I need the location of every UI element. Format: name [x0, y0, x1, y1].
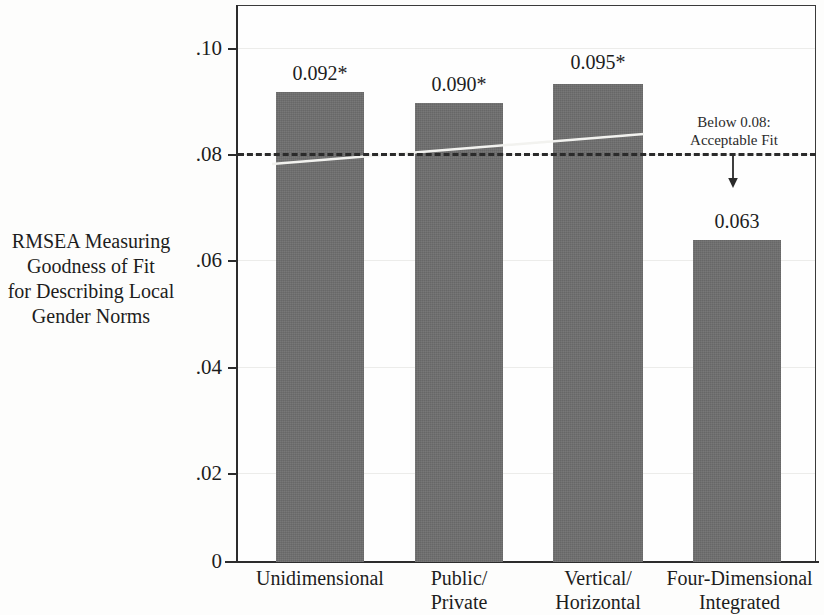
y-tick-mark [228, 473, 238, 475]
bar-value-label: 0.090* [409, 74, 509, 94]
y-tick-mark [228, 561, 238, 563]
threshold-annotation-line: Acceptable Fit [663, 131, 805, 149]
x-category-label-line: Integrated [655, 590, 824, 614]
y-tick-label: 0 [170, 551, 222, 572]
gridline [238, 48, 815, 49]
x-category-label-line: Four-Dimensional [655, 566, 824, 590]
threshold-annotation: Below 0.08: Acceptable Fit [663, 113, 805, 149]
y-tick-label: .10 [170, 38, 222, 59]
x-category-label-line: Vertical/ [536, 566, 660, 590]
y-tick-label: .06 [170, 250, 222, 271]
y-axis-title: RMSEA Measuring Goodness of Fit for Desc… [2, 229, 180, 329]
y-tick-mark [228, 154, 238, 156]
bar-value-label: 0.095* [548, 52, 648, 72]
y-axis-title-line: RMSEA Measuring [2, 229, 180, 254]
x-category-label-line: Public/ [404, 566, 514, 590]
x-category-label-line: Horizontal [536, 590, 660, 614]
y-tick-mark [228, 260, 238, 262]
bar-value-label: 0.063 [687, 211, 787, 231]
x-category-label-line: Private [404, 590, 514, 614]
x-category-label-public-private: Public/ Private [404, 566, 514, 614]
x-category-label-four-dimensional-integrated: Four-Dimensional Integrated [655, 566, 824, 614]
y-axis-title-line: Gender Norms [2, 304, 180, 329]
x-category-label-line: Unidimensional [248, 566, 392, 590]
y-axis-title-line: for Describing Local [2, 279, 180, 304]
y-axis-line [236, 5, 238, 563]
y-tick-label: .04 [170, 357, 222, 378]
rmsea-bar-chart-figure: RMSEA Measuring Goodness of Fit for Desc… [0, 0, 824, 615]
bar-unidimensional [276, 92, 364, 562]
y-tick-mark [228, 48, 238, 50]
y-tick-label: .08 [170, 144, 222, 165]
y-tick-label: .02 [170, 463, 222, 484]
threshold-annotation-line: Below 0.08: [663, 113, 805, 131]
y-tick-mark [228, 367, 238, 369]
bar-four-dimensional-integrated [693, 240, 781, 562]
y-axis-title-line: Goodness of Fit [2, 254, 180, 279]
x-category-label-unidimensional: Unidimensional [248, 566, 392, 590]
bar-public-private [415, 103, 503, 562]
x-category-label-vertical-horizontal: Vertical/ Horizontal [536, 566, 660, 614]
bar-value-label: 0.092* [270, 63, 370, 83]
down-arrow-icon [718, 155, 748, 189]
